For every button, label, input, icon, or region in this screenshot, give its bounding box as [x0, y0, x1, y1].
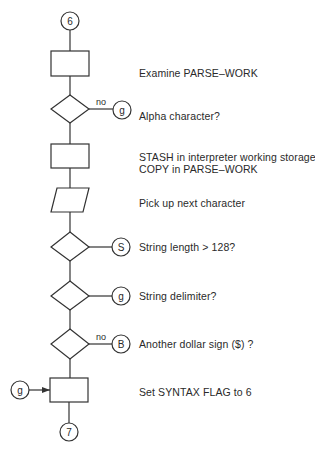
svg-text:S: S [118, 242, 125, 253]
process-box-examine [51, 51, 89, 76]
svg-text:g: g [119, 105, 125, 116]
branch-connector-s: S [112, 238, 130, 256]
decision-diamond-alpha [51, 95, 89, 123]
branch-connector-g2: g [112, 287, 130, 305]
process-box-stash [51, 144, 89, 168]
decision-diamond-dollar [51, 329, 89, 359]
arrow-head-icon [42, 387, 50, 393]
step-label-syntax-flag: Set SYNTAX FLAG to 6 [139, 386, 252, 398]
decision-diamond-length [51, 232, 89, 261]
step-label-delimiter: String delimiter? [139, 290, 217, 302]
branch-no-label: no [96, 332, 106, 342]
step-label-dollar: Another dollar sign ($) ? [139, 338, 254, 350]
exit-connector-label: 7 [66, 427, 72, 438]
step-label-pickup: Pick up next character [139, 197, 245, 209]
io-parallelogram-pickup [51, 188, 89, 212]
svg-text:B: B [118, 339, 125, 350]
entry-connector: 6 [61, 12, 79, 30]
branch-connector-g: g [113, 101, 131, 119]
branch-connector-b: B [112, 335, 130, 353]
decision-diamond-delimiter [51, 281, 89, 310]
step-label-stash: STASH in interpreter working storage [139, 151, 315, 163]
step-label-copy: COPY in PARSE–WORK [139, 163, 258, 175]
svg-text:g: g [17, 385, 23, 396]
step-label-alpha: Alpha character? [139, 110, 220, 122]
branch-no-label: no [96, 97, 106, 107]
exit-connector: 7 [60, 423, 78, 441]
step-label-length: String length > 128? [139, 241, 235, 253]
entry-connector-label: 6 [67, 16, 73, 27]
svg-text:g: g [118, 291, 124, 302]
step-label-examine: Examine PARSE–WORK [139, 67, 258, 79]
incoming-connector-g: g [11, 381, 29, 399]
process-box-syntax-flag [50, 378, 88, 402]
